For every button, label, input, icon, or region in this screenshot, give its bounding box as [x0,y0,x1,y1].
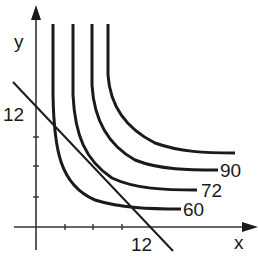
curve-72-label: 72 [201,180,222,201]
indifference-curve-chart: y x 12 12 60 72 90 [0,0,259,258]
y-axis-arrow-icon [31,5,41,20]
curve-90-label: 90 [220,160,241,181]
curve-60-label: 60 [183,199,204,220]
x-axis-arrow-icon [242,222,258,232]
x-axis-label: x [234,232,244,253]
y-axis-label: y [14,31,24,52]
x-intercept-label: 12 [131,234,152,255]
y-intercept-label: 12 [3,104,24,125]
curve-highest [108,24,235,153]
